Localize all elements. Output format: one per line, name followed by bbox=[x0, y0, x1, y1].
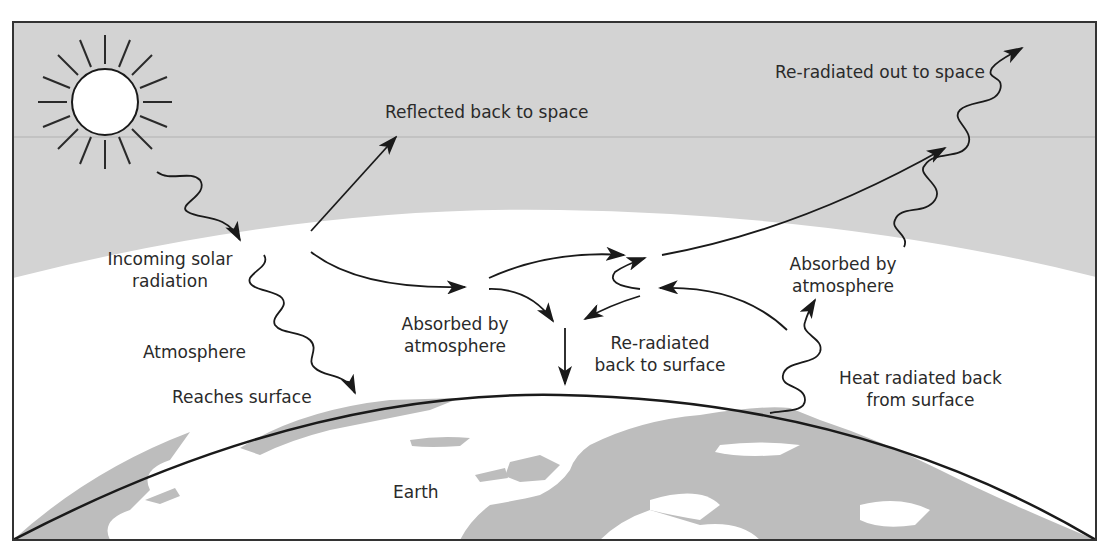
label-incoming: Incoming solar radiation bbox=[100, 248, 240, 292]
label-reradiated-out: Re-radiated out to space bbox=[775, 62, 985, 82]
label-earth: Earth bbox=[393, 482, 439, 502]
label-reradiated-back: Re-radiated back to surface bbox=[585, 332, 735, 376]
label-atmosphere: Atmosphere bbox=[143, 342, 246, 362]
label-absorbed-center: Absorbed by atmosphere bbox=[390, 313, 520, 357]
greenhouse-diagram: Reflected back to space Re-radiated out … bbox=[0, 0, 1105, 551]
label-reflected: Reflected back to space bbox=[385, 102, 589, 122]
label-heat-radiated: Heat radiated back from surface bbox=[828, 367, 1013, 411]
label-reaches-surface: Reaches surface bbox=[172, 387, 312, 407]
sun-icon bbox=[38, 35, 172, 169]
label-absorbed-right: Absorbed by atmosphere bbox=[778, 253, 908, 297]
